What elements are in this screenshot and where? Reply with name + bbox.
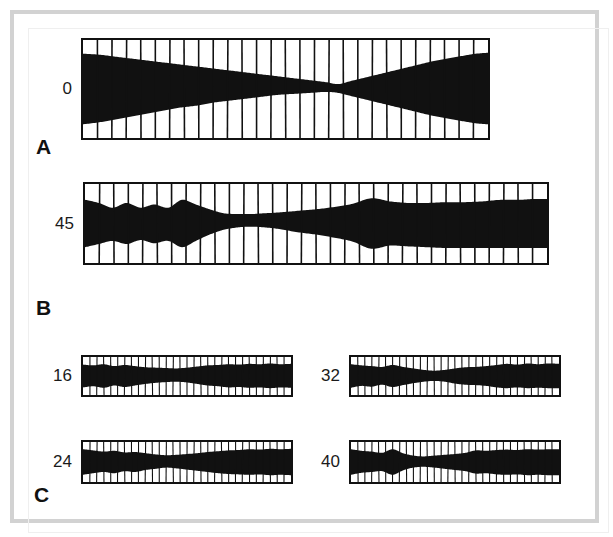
panel-value-label-45: 45 xyxy=(28,215,74,232)
panel-value-label-24: 24 xyxy=(26,453,72,470)
section-letter-C: C xyxy=(34,484,49,505)
trace-plot-32 xyxy=(351,357,559,395)
trace-panel-16 xyxy=(81,355,293,397)
section-letter-B: B xyxy=(36,297,51,318)
trace-plot-45 xyxy=(85,184,547,263)
trace-plot-16 xyxy=(83,357,291,395)
panel-value-label-16: 16 xyxy=(26,367,72,384)
panel-value-label-0: 0 xyxy=(26,80,72,97)
trace-panel-45 xyxy=(83,182,549,265)
section-letter-A: A xyxy=(36,136,51,157)
trace-panel-0 xyxy=(81,38,490,140)
trace-plot-40 xyxy=(351,442,559,482)
trace-plot-24 xyxy=(83,442,291,482)
trace-panel-40 xyxy=(349,440,561,484)
figure-root: 04516322440ABC xyxy=(0,0,613,537)
panel-value-label-40: 40 xyxy=(294,453,340,470)
trace-plot-0 xyxy=(83,40,488,138)
trace-panel-24 xyxy=(81,440,293,484)
trace-panel-32 xyxy=(349,355,561,397)
panel-value-label-32: 32 xyxy=(294,367,340,384)
